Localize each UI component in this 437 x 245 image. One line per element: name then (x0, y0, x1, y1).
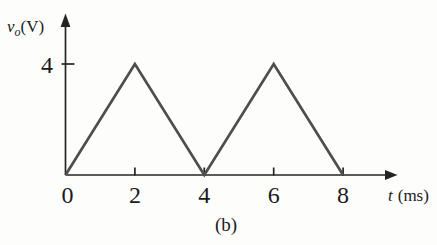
figure-caption: (b) (215, 214, 237, 236)
x-tick-label-4: 4 (198, 182, 210, 208)
y-axis-arrow-icon (61, 14, 71, 28)
y-tick-label-4: 4 (41, 52, 53, 78)
x-tick-label-8: 8 (337, 182, 349, 208)
y-axis-unit: (V) (21, 17, 45, 36)
x-axis-unit: (ms) (398, 186, 429, 205)
x-tick-label-0: 0 (62, 182, 74, 208)
y-axis-ticks: 4 (41, 52, 75, 78)
x-axis-arrow-icon (385, 170, 398, 180)
x-tick-label-6: 6 (268, 182, 280, 208)
x-tick-label-2: 2 (129, 182, 141, 208)
x-axis-symbol: t (388, 186, 394, 205)
x-axis-label: t(ms) (388, 186, 429, 205)
y-axis-label: vo(V) (7, 17, 44, 39)
waveform-line (66, 64, 344, 175)
waveform-figure: 02468 4 vo(V) t(ms) (b) (0, 0, 437, 245)
waveform-chart: 02468 4 vo(V) t(ms) (b) (0, 0, 437, 245)
